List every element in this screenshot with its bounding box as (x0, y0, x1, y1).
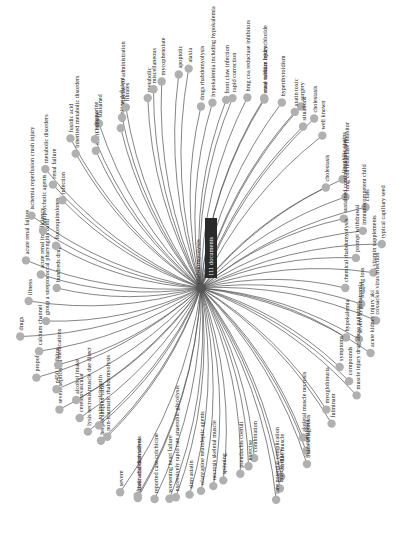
node-label: chemical rhabdomyolysis (342, 218, 349, 282)
node[interactable] (291, 108, 299, 116)
node[interactable] (27, 211, 35, 219)
node[interactable] (219, 476, 227, 484)
node[interactable] (244, 462, 252, 470)
node[interactable] (117, 124, 125, 132)
node[interactable] (35, 347, 43, 355)
node-label: immunocompetent child (360, 164, 367, 225)
network-diagram: drugs rhabdomyolysishypokalemia includin… (0, 0, 404, 540)
node-label: hmg coa reductase inhibitors (244, 20, 251, 92)
node-label: renal failure (50, 148, 57, 178)
node-label: ataxia (186, 48, 193, 63)
node-label: well known (319, 101, 326, 130)
node[interactable] (55, 405, 63, 413)
node[interactable] (103, 433, 111, 441)
node-label: antipsychotic agents (40, 174, 47, 225)
node[interactable] (39, 227, 47, 235)
node-label: worsening heart failure (166, 435, 173, 493)
node[interactable] (341, 284, 349, 292)
node[interactable] (378, 240, 386, 248)
node-label: cholestasis (323, 154, 330, 181)
node[interactable] (335, 363, 343, 371)
node[interactable] (150, 495, 158, 503)
node-label: excessively rapid rate anaerobic glycoly… (173, 385, 180, 491)
node[interactable] (22, 256, 30, 264)
node-label: hypokalemia including hypokalemia (209, 6, 216, 97)
documents-badge-label: 111 documents (207, 236, 214, 276)
node-label: drugs (17, 316, 24, 330)
node-label: necrosis skeletal muscle (210, 420, 217, 480)
node[interactable] (49, 180, 57, 188)
node[interactable] (345, 377, 353, 385)
node[interactable] (327, 419, 335, 427)
node[interactable] (236, 470, 244, 478)
node[interactable] (52, 385, 60, 393)
node[interactable] (165, 495, 173, 503)
node[interactable] (24, 297, 32, 305)
node[interactable] (175, 70, 183, 78)
node[interactable] (322, 183, 330, 191)
node[interactable] (32, 373, 40, 381)
node[interactable] (303, 460, 311, 468)
node-label: apoptotic (176, 45, 183, 68)
node[interactable] (42, 317, 50, 325)
node[interactable] (122, 103, 130, 111)
node-label: lysis necrosis muscle due direct (85, 347, 92, 426)
node[interactable] (352, 391, 360, 399)
node-label: severe (117, 470, 124, 486)
node[interactable] (95, 421, 103, 429)
node[interactable] (278, 98, 286, 106)
node[interactable] (58, 196, 66, 204)
node[interactable] (16, 332, 24, 340)
node[interactable] (92, 147, 100, 155)
node[interactable] (209, 482, 217, 490)
node-label: fibrates (123, 82, 130, 101)
edge (201, 279, 345, 288)
node[interactable] (66, 134, 74, 142)
node[interactable] (72, 396, 80, 404)
node[interactable] (208, 98, 216, 106)
node-label: renal tubular injury (261, 45, 268, 94)
node-label: reported case colchicine (152, 433, 159, 493)
node-label: olanzapine neuroleptic agents (198, 411, 205, 485)
node-label: metabolic disorders (42, 114, 49, 163)
node-label: exercise (246, 440, 253, 461)
node[interactable] (52, 242, 60, 250)
node-label: miscellaneous (150, 48, 157, 84)
node[interactable] (310, 114, 318, 122)
node[interactable] (197, 487, 205, 495)
node[interactable] (157, 77, 165, 85)
node[interactable] (133, 492, 141, 500)
node-label: cholestasis (311, 85, 318, 112)
node[interactable] (243, 93, 251, 101)
node[interactable] (53, 284, 61, 292)
node[interactable] (54, 361, 62, 369)
node-label: cyclosporine (92, 101, 99, 133)
node[interactable] (118, 113, 126, 121)
node[interactable] (197, 102, 205, 110)
node[interactable] (318, 131, 326, 139)
node[interactable] (116, 488, 124, 496)
node[interactable] (228, 94, 236, 102)
node-label: situations (300, 96, 307, 120)
node[interactable] (352, 254, 360, 262)
node[interactable] (366, 349, 374, 357)
node[interactable] (144, 94, 152, 102)
node[interactable] (260, 95, 268, 103)
node[interactable] (184, 64, 192, 72)
node[interactable] (72, 149, 80, 157)
node[interactable] (37, 270, 45, 278)
node[interactable] (41, 165, 49, 173)
node[interactable] (75, 414, 83, 422)
node[interactable] (91, 135, 99, 143)
node-label: spinning (220, 453, 227, 474)
node-label: medications (55, 328, 62, 358)
node[interactable] (84, 427, 92, 435)
node-label: calcium channel (36, 305, 43, 346)
node-label: sustained continuous pressure (341, 138, 348, 212)
node[interactable] (299, 122, 307, 130)
node[interactable] (272, 496, 280, 504)
node[interactable] (359, 227, 367, 235)
node-label: toxin rhabdomyolysis (135, 435, 142, 489)
node[interactable] (185, 490, 193, 498)
node[interactable] (149, 85, 157, 93)
